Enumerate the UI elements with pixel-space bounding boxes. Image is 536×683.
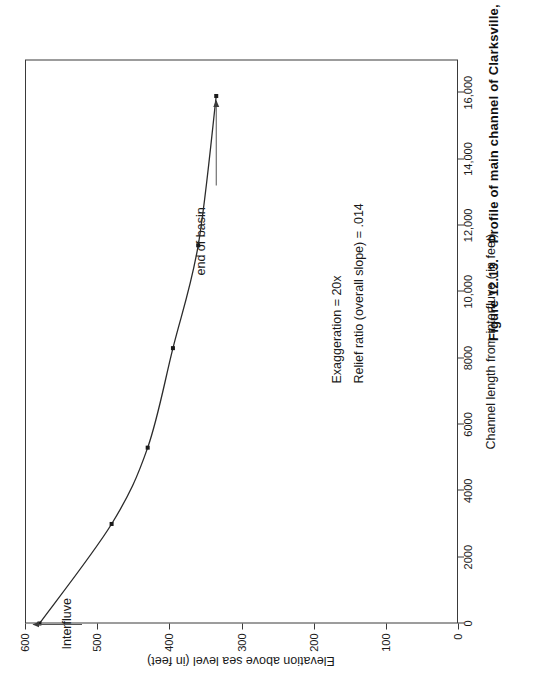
- figure-caption: Figure 12.13. Profile of main channel of…: [486, 0, 501, 341]
- data-point-marker: [146, 445, 150, 449]
- data-point-marker: [214, 93, 218, 97]
- data-point-marker: [171, 346, 175, 350]
- data-point-marker: [110, 521, 114, 525]
- profile-line: [39, 95, 216, 623]
- profile-curve: [0, 0, 536, 683]
- figure-caption-text: Profile of main channel of Clarksville, …: [486, 0, 501, 243]
- data-point-marker: [196, 243, 200, 247]
- figure-number: Figure 12.13.: [486, 259, 501, 341]
- figure-rotated-container: 0200040006000800010,00012,00014,00016,00…: [0, 0, 536, 683]
